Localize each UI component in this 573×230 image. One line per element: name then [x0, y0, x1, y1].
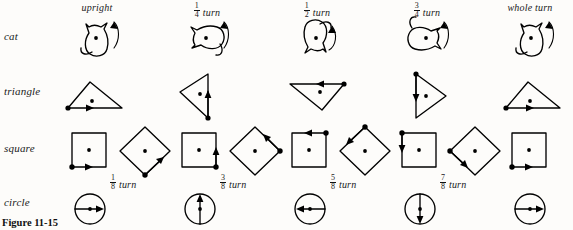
triangle-quarter-turn — [172, 68, 232, 124]
circle-icon — [288, 188, 332, 230]
circle-icon — [68, 188, 112, 230]
circle-half-turn — [288, 188, 332, 230]
column-label-three-eighth-turn-text: turn — [229, 179, 246, 190]
circle-whole-turn — [508, 188, 552, 230]
square-eighth-turn — [114, 122, 176, 180]
circle-icon — [178, 188, 222, 230]
square-half-turn — [286, 127, 336, 173]
square-upright — [66, 127, 116, 173]
cat-quarter-turn — [178, 14, 242, 62]
column-label-five-eighth-turn-text: turn — [339, 179, 356, 190]
square-whole-turn — [506, 127, 556, 173]
square-icon — [396, 127, 446, 173]
diamond-icon — [444, 122, 506, 180]
column-label-upright: upright — [62, 2, 132, 13]
figure-caption-text: Figure 11-15 — [2, 217, 58, 228]
cat-icon — [505, 14, 569, 62]
square-quarter-turn — [176, 127, 226, 173]
circle-icon — [508, 188, 552, 230]
column-label-seven-eighth-turn-text: turn — [449, 179, 466, 190]
square-icon — [506, 127, 556, 173]
triangle-upright — [60, 74, 130, 116]
triangle-icon — [60, 74, 130, 116]
cat-icon — [398, 14, 462, 62]
circle-upright — [68, 188, 112, 230]
diamond-icon — [114, 122, 176, 180]
diamond-icon — [224, 122, 286, 180]
cat-half-turn — [288, 14, 352, 62]
row-label-triangle: triangle — [4, 85, 40, 97]
triangle-three-quarter-turn — [398, 68, 458, 124]
triangle-whole-turn — [498, 74, 568, 116]
column-label-whole-turn: whole turn — [492, 2, 568, 13]
square-icon — [286, 127, 336, 173]
square-three-eighth-turn — [224, 122, 286, 180]
cat-icon — [68, 14, 132, 62]
square-seven-eighth-turn — [444, 122, 506, 180]
row-label-square: square — [4, 142, 35, 154]
square-icon — [66, 127, 116, 173]
diamond-icon — [334, 122, 396, 180]
row-label-circle: circle — [4, 196, 30, 208]
column-label-eighth-turn-text: turn — [119, 179, 136, 190]
column-label-upright-text: upright — [82, 2, 113, 13]
cat-three-quarter-turn — [398, 14, 462, 62]
square-three-quarter-turn — [396, 127, 446, 173]
triangle-half-turn — [282, 76, 352, 118]
figure-caption: Figure 11-15 — [2, 217, 58, 228]
cat-whole-turn — [505, 14, 569, 62]
circle-icon — [398, 188, 442, 230]
circle-quarter-turn — [178, 188, 222, 230]
cat-upright — [68, 14, 132, 62]
cat-icon — [288, 14, 352, 62]
circle-three-quarter-turn — [398, 188, 442, 230]
figure-rotational-symmetry: upright 1 4 turn 1 2 turn 3 4 turn whole… — [0, 0, 573, 230]
cat-icon — [178, 14, 242, 62]
square-five-eighth-turn — [334, 122, 396, 180]
triangle-icon — [498, 74, 568, 116]
triangle-icon — [282, 76, 352, 118]
triangle-icon — [172, 68, 232, 124]
square-icon — [176, 127, 226, 173]
triangle-icon — [398, 68, 458, 124]
row-label-cat: cat — [4, 30, 18, 42]
column-label-whole-turn-text: whole turn — [507, 2, 552, 13]
